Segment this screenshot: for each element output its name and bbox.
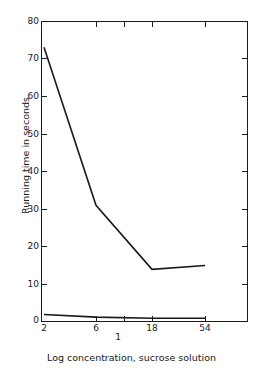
series-upper-curve	[44, 47, 205, 269]
chart-figure: 80 70 60 50 40 30 20 10 0 2 6 18 54 1 Ru…	[0, 0, 263, 375]
series-layer	[0, 0, 263, 375]
series-lower-curve	[44, 314, 205, 318]
